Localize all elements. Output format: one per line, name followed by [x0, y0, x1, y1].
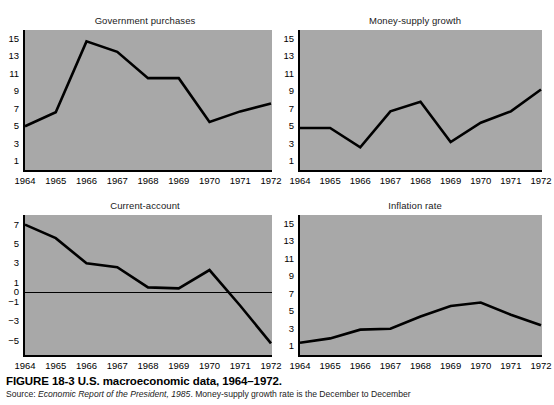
y-axis-tick-label: 5	[275, 306, 294, 316]
x-axis-tick-label: 1967	[377, 361, 403, 371]
caption-source-reference: Economic Report of the President, 1985	[38, 389, 190, 399]
data-line-money-supply	[299, 30, 542, 170]
x-axis-tick-label: 1970	[468, 361, 494, 371]
y-axis-tick-label: −3	[0, 316, 19, 326]
y-axis-tick-label: 13	[275, 236, 294, 246]
series-polyline	[300, 303, 541, 343]
x-axis-tick-label: 1965	[317, 361, 343, 371]
y-axis-tick-label: 9	[0, 86, 19, 96]
y-axis-tick-label: 15	[0, 34, 19, 44]
y-axis-tick-label: 3	[0, 258, 19, 268]
x-axis-line	[23, 170, 272, 172]
y-axis-tick-label: 13	[0, 51, 19, 61]
data-line-government-purchases	[24, 30, 272, 170]
y-axis-tick-label: 7	[275, 289, 294, 299]
y-axis-tick-label: 3	[275, 139, 294, 149]
series-polyline	[25, 41, 271, 126]
y-axis-tick-label: 9	[275, 86, 294, 96]
y-axis-tick-label: 11	[0, 69, 19, 79]
y-axis-tick-label: 11	[275, 69, 294, 79]
caption-source-prefix: Source:	[6, 389, 38, 399]
x-axis-line	[298, 170, 542, 172]
x-axis-tick-label: 1964	[287, 361, 313, 371]
x-axis-line	[298, 355, 542, 357]
data-line-inflation	[299, 215, 542, 355]
y-axis-tick-label: 3	[0, 139, 19, 149]
y-axis-tick-label: 7	[0, 220, 19, 230]
chart-panel-current-account: Current-account surplus ($ billion) 7531…	[0, 185, 275, 370]
y-axis-tick-label: −5	[0, 336, 19, 346]
y-axis-tick-label: 15	[275, 34, 294, 44]
caption-title: FIGURE 18-3 U.S. macroeconomic data, 196…	[6, 374, 539, 388]
y-axis-tick-label: 9	[275, 271, 294, 281]
chart-title-line1: Money-supply growth	[295, 15, 535, 27]
figure-caption: FIGURE 18-3 U.S. macroeconomic data, 196…	[6, 374, 539, 400]
y-axis-tick-label: 13	[275, 51, 294, 61]
series-polyline	[300, 90, 541, 148]
x-axis-tick-label: 1971	[498, 361, 524, 371]
y-axis-tick-label: −1	[0, 297, 19, 307]
y-axis-tick-label: 11	[275, 254, 294, 264]
chart-panel-money-supply: Money-supply growth rate (percent per ye…	[275, 0, 545, 185]
x-axis-line	[23, 355, 272, 357]
y-axis-tick-label: 1	[275, 341, 294, 351]
x-axis-tick-label: 1970	[197, 361, 223, 371]
x-axis-tick-label: 1968	[408, 361, 434, 371]
x-axis-tick-label: 1971	[227, 361, 253, 371]
y-axis-tick-label: 5	[275, 121, 294, 131]
y-axis-tick-label: 3	[275, 324, 294, 334]
x-axis-tick-label: 1964	[12, 361, 38, 371]
data-line-current-account	[24, 215, 272, 355]
y-axis-tick-label: 5	[0, 239, 19, 249]
y-axis-tick-label: 7	[275, 104, 294, 114]
y-axis-tick-label: 5	[0, 121, 19, 131]
x-axis-tick-label: 1966	[347, 361, 373, 371]
y-axis-tick-label: 1	[275, 156, 294, 166]
x-axis-tick-label: 1972	[528, 361, 554, 371]
caption-source: Source: Economic Report of the President…	[6, 389, 539, 400]
chart-panel-inflation: Inflation rate (percent per year) 151311…	[275, 185, 545, 370]
caption-source-suffix: . Money-supply growth rate is the Decemb…	[190, 389, 410, 399]
y-axis-tick-label: 15	[275, 219, 294, 229]
x-axis-tick-label: 1967	[104, 361, 130, 371]
x-axis-tick-label: 1969	[166, 361, 192, 371]
y-axis-tick-label: 1	[0, 156, 19, 166]
y-axis-tick-label: 7	[0, 104, 19, 114]
chart-title-line1: Inflation rate	[295, 200, 535, 212]
chart-title-line1: Government purchases	[20, 15, 270, 27]
series-polyline	[25, 225, 271, 344]
chart-title-line1: Current-account	[20, 200, 270, 212]
x-axis-tick-label: 1965	[43, 361, 69, 371]
chart-panel-government-purchases: Government purchases growth rate (percen…	[0, 0, 275, 185]
x-axis-tick-label: 1969	[438, 361, 464, 371]
x-axis-tick-label: 1966	[74, 361, 100, 371]
x-axis-tick-label: 1968	[135, 361, 161, 371]
